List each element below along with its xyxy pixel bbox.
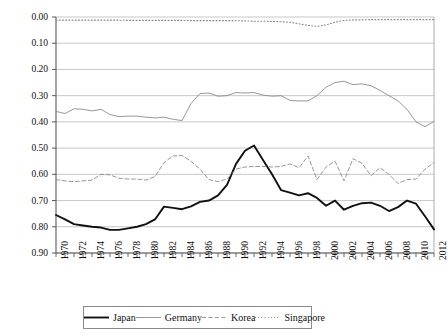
y-axis-tick-label: 0.10: [16, 38, 48, 48]
y-axis-tick-label: 0.50: [16, 143, 48, 153]
y-axis-tick-label: 0.00: [16, 12, 48, 22]
legend-label-japan: Japan: [113, 312, 136, 323]
x-axis-tick-label: 1992: [258, 241, 268, 260]
x-axis-tick-label: 1998: [312, 241, 322, 260]
x-axis-tick-label: 2012: [438, 241, 448, 260]
x-axis-tick-label: 1994: [276, 241, 286, 260]
legend-swatch-singapore: [255, 313, 280, 322]
x-axis-tick-label: 2010: [420, 241, 430, 260]
x-axis-tick-label: 2008: [402, 241, 412, 260]
x-axis-tick-label: 2002: [348, 241, 358, 260]
x-axis-tick-label: 1988: [222, 241, 232, 260]
y-axis-tick-label: 0.20: [16, 64, 48, 74]
y-axis-tick-label: 0.70: [16, 196, 48, 206]
y-axis-tick-label: 0.30: [16, 91, 48, 101]
series-line-singapore: [56, 20, 434, 27]
legend-entry-korea[interactable]: Korea: [202, 312, 255, 323]
x-axis-tick-label: 2000: [330, 241, 340, 260]
legend-entry-germany[interactable]: Germany: [136, 312, 202, 323]
y-axis-tick-label: 0.90: [16, 248, 48, 258]
series-line-japan: [56, 145, 434, 229]
chart-legend: JapanGermanyKoreaSingapore: [83, 306, 312, 329]
y-axis-tick-label: 0.60: [16, 169, 48, 179]
x-axis-tick-label: 2004: [366, 241, 376, 260]
x-axis-tick-label: 1980: [150, 241, 160, 260]
legend-label-singapore: Singapore: [284, 312, 325, 323]
series-line-germany: [56, 81, 434, 126]
x-axis-tick-label: 1978: [132, 241, 142, 260]
series-line-korea: [56, 155, 434, 183]
legend-label-germany: Germany: [165, 312, 202, 323]
x-axis-tick-label: 1982: [168, 241, 178, 260]
x-axis-tick-label: 1984: [186, 241, 196, 260]
x-axis-tick-label: 1976: [114, 241, 124, 260]
y-axis-tick-label: 0.40: [16, 117, 48, 127]
legend-entry-singapore[interactable]: Singapore: [255, 312, 325, 323]
y-axis-tick-label: 0.80: [16, 222, 48, 232]
x-axis-tick-label: 1986: [204, 241, 214, 260]
x-axis-tick-label: 1974: [96, 241, 106, 260]
legend-entry-japan[interactable]: Japan: [84, 312, 136, 323]
legend-swatch-korea: [202, 313, 227, 322]
legend-swatch-japan: [84, 313, 109, 322]
legend-swatch-germany: [136, 313, 161, 322]
x-axis-tick-label: 1972: [78, 241, 88, 260]
x-axis-tick-label: 1970: [60, 241, 70, 260]
x-axis-tick-label: 2006: [384, 241, 394, 260]
x-axis-tick-label: 1996: [294, 241, 304, 260]
legend-label-korea: Korea: [231, 312, 255, 323]
x-axis-tick-label: 1990: [240, 241, 250, 260]
